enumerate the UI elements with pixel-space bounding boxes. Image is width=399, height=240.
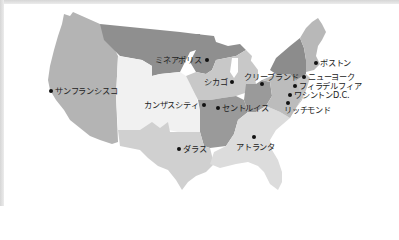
city-dot-icon xyxy=(49,89,53,93)
city-washington-dc: ワシントンD.C. xyxy=(288,90,349,100)
city-dot-icon xyxy=(293,84,297,88)
city-label: カンザスシティ xyxy=(144,100,199,110)
city-dot-icon xyxy=(177,147,181,151)
city-label: サンフランシスコ xyxy=(55,86,117,96)
city-atlanta: アトランタ xyxy=(236,142,275,152)
city-label: シカゴ xyxy=(204,77,227,87)
city-label: クリーブランド xyxy=(244,72,299,82)
city-boston: ボストン xyxy=(314,58,351,68)
city-dot-icon xyxy=(302,75,306,79)
city-label: ダラス xyxy=(183,144,206,154)
city-label: ボストン xyxy=(320,58,351,68)
city-label: ワシントンD.C. xyxy=(294,90,349,100)
city-san-francisco: サンフランシスコ xyxy=(49,86,117,96)
city-dot-icon xyxy=(202,103,206,107)
city-label: セントルイス xyxy=(222,103,269,113)
city-dot-icon xyxy=(288,93,292,97)
atlanta-dot-icon xyxy=(252,135,256,139)
city-chicago: シカゴ xyxy=(204,77,234,87)
city-label: リッチモンド xyxy=(284,105,331,115)
city-dot-icon xyxy=(230,80,234,84)
cleveland-dot-icon xyxy=(260,82,264,86)
city-cleveland: クリーブランド xyxy=(244,72,299,82)
city-kansas-city: カンザスシティ xyxy=(144,100,206,110)
city-dot-icon xyxy=(314,61,318,65)
city-dot-icon xyxy=(205,58,209,62)
region-texas xyxy=(118,122,214,190)
city-dot-icon xyxy=(216,106,220,110)
city-label: アトランタ xyxy=(236,142,275,152)
city-label: ミネアポリス xyxy=(155,55,202,65)
city-st-louis: セントルイス xyxy=(216,103,269,113)
city-dallas: ダラス xyxy=(177,144,206,154)
city-richmond: リッチモンド xyxy=(284,105,331,115)
city-minneapolis: ミネアポリス xyxy=(155,55,209,65)
